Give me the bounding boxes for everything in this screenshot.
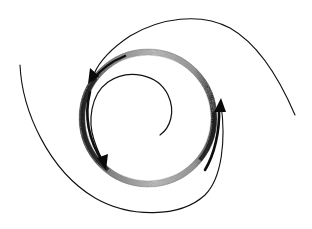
- outer-left-spiral-arm: [20, 65, 223, 213]
- ring: [79, 49, 217, 187]
- inner-spiral-arm: [91, 74, 172, 166]
- spiral-diagram: [0, 0, 312, 229]
